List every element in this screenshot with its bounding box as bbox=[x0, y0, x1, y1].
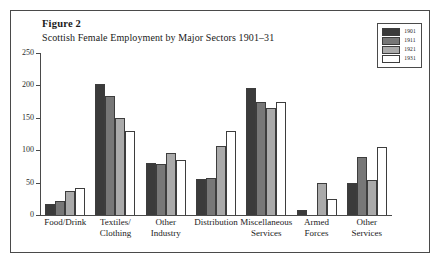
bar-1931[interactable] bbox=[75, 188, 85, 215]
legend-swatch bbox=[382, 46, 400, 54]
bar-1931[interactable] bbox=[276, 102, 286, 215]
x-axis-label: OtherServices bbox=[352, 217, 383, 239]
bar-1911[interactable] bbox=[55, 201, 65, 215]
legend-label: 1911 bbox=[404, 38, 416, 44]
bar-group: OtherServices bbox=[342, 53, 392, 215]
bar-group: Textiles/Clothing bbox=[90, 53, 140, 215]
x-axis-label: OtherIndustry bbox=[151, 217, 181, 239]
bar-1921[interactable] bbox=[115, 118, 125, 215]
x-axis bbox=[40, 215, 392, 216]
bar-set bbox=[146, 53, 186, 215]
y-tick-mark bbox=[36, 215, 40, 216]
bar-set bbox=[297, 53, 337, 215]
plot-area: 050100150200250 Food/DrinkTextiles/Cloth… bbox=[40, 53, 392, 216]
x-axis-label: MiscellaneousServices bbox=[240, 217, 292, 239]
bar-group: Distribution bbox=[191, 53, 241, 215]
y-tick-label: 0 bbox=[30, 211, 34, 219]
figure-number: Figure 2 bbox=[42, 18, 81, 29]
bar-1931[interactable] bbox=[226, 131, 236, 215]
x-axis-label: Food/Drink bbox=[44, 217, 86, 228]
x-axis-label: Textiles/Clothing bbox=[100, 217, 132, 239]
y-tick-label: 100 bbox=[22, 146, 34, 154]
x-axis-label: Distribution bbox=[194, 217, 238, 228]
bar-1921[interactable] bbox=[65, 191, 75, 215]
bar-1901[interactable] bbox=[146, 163, 156, 215]
legend-swatch bbox=[382, 37, 400, 45]
y-tick-label: 150 bbox=[22, 114, 34, 122]
bar-set bbox=[95, 53, 135, 215]
legend-swatch bbox=[382, 28, 400, 36]
bar-1901[interactable] bbox=[297, 210, 307, 215]
bar-1901[interactable] bbox=[196, 179, 206, 215]
bar-1911[interactable] bbox=[256, 102, 266, 215]
bar-1921[interactable] bbox=[317, 183, 327, 215]
bar-1911[interactable] bbox=[156, 164, 166, 215]
legend-swatch bbox=[382, 55, 400, 63]
bar-1911[interactable] bbox=[105, 96, 115, 215]
bar-1911[interactable] bbox=[206, 178, 216, 215]
bar-1901[interactable] bbox=[246, 88, 256, 215]
bar-group: OtherIndustry bbox=[141, 53, 191, 215]
bar-group: Food/Drink bbox=[40, 53, 90, 215]
bar-set bbox=[246, 53, 286, 215]
bar-1931[interactable] bbox=[377, 147, 387, 215]
legend-item[interactable]: 1901 bbox=[382, 28, 416, 36]
bar-group: MiscellaneousServices bbox=[241, 53, 291, 215]
figure-root: Figure 2 Scottish Female Employment by M… bbox=[0, 0, 440, 263]
chart-legend: 1901191119211931 bbox=[377, 23, 422, 68]
legend-item[interactable]: 1921 bbox=[382, 46, 416, 54]
bar-set bbox=[196, 53, 236, 215]
legend-item[interactable]: 1911 bbox=[382, 37, 416, 45]
bar-1931[interactable] bbox=[327, 199, 337, 215]
y-tick-label: 200 bbox=[22, 81, 34, 89]
bar-1921[interactable] bbox=[266, 108, 276, 215]
bar-groups: Food/DrinkTextiles/ClothingOtherIndustry… bbox=[40, 53, 392, 215]
bar-1921[interactable] bbox=[216, 146, 226, 215]
x-axis-label: ArmedForces bbox=[304, 217, 329, 239]
legend-label: 1931 bbox=[404, 56, 416, 62]
y-tick-label: 50 bbox=[26, 179, 34, 187]
legend-label: 1901 bbox=[404, 29, 416, 35]
bar-1931[interactable] bbox=[176, 160, 186, 215]
legend-item[interactable]: 1931 bbox=[382, 55, 416, 63]
bar-1921[interactable] bbox=[166, 153, 176, 215]
bar-1901[interactable] bbox=[95, 84, 105, 215]
bar-1901[interactable] bbox=[45, 204, 55, 215]
bar-set bbox=[347, 53, 387, 215]
bar-group: ArmedForces bbox=[291, 53, 341, 215]
bar-1921[interactable] bbox=[367, 180, 377, 215]
legend-label: 1921 bbox=[404, 47, 416, 53]
figure-title: Scottish Female Employment by Major Sect… bbox=[42, 32, 274, 43]
bar-set bbox=[45, 53, 85, 215]
bar-1911[interactable] bbox=[357, 157, 367, 215]
bar-1901[interactable] bbox=[347, 183, 357, 215]
y-tick-label: 250 bbox=[22, 49, 34, 57]
bar-1931[interactable] bbox=[125, 131, 135, 215]
